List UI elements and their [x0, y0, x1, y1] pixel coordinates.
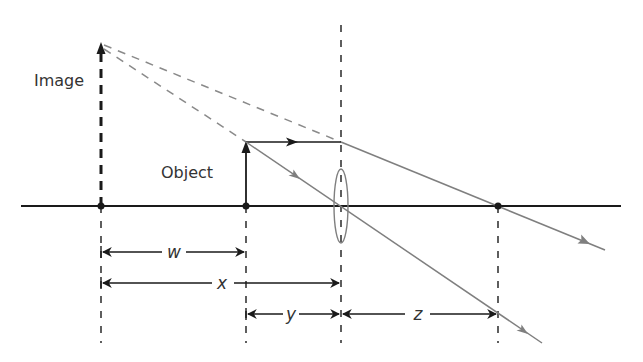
dimension-y-label: y: [285, 304, 297, 324]
image-arrowhead-icon: [97, 42, 106, 54]
object-label: Object: [161, 163, 213, 182]
thin-lens-ray-diagram: w x y z Image Object: [0, 0, 643, 362]
dimension-w-label: w: [167, 242, 181, 262]
central-ray-arrow-lower-icon: [517, 325, 529, 335]
reference-dashed-lines: [101, 25, 498, 343]
focal-point: [495, 203, 502, 210]
central-ray-arrow-upper-icon: [289, 170, 301, 180]
dimension-z-label: z: [413, 304, 424, 324]
virtual-image-arrow: [97, 42, 106, 206]
image-label: Image: [34, 71, 84, 90]
image-base-point: [98, 203, 105, 210]
object-arrow: [242, 141, 251, 206]
object-base-point: [243, 203, 250, 210]
virtual-rays: [104, 45, 341, 142]
virtual-ray-lower: [104, 49, 246, 142]
dimension-x-label: x: [216, 273, 228, 293]
